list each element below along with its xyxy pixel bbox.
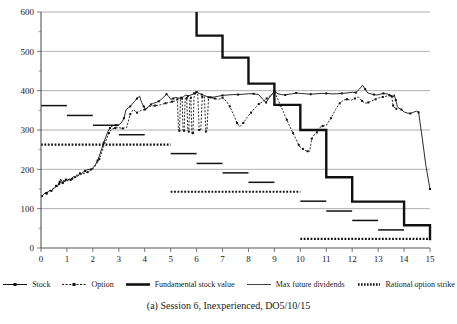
svg-text:15: 15 bbox=[426, 254, 436, 264]
svg-text:100: 100 bbox=[21, 204, 35, 214]
gridlines bbox=[41, 12, 430, 248]
max-future-dividends-series bbox=[41, 106, 404, 230]
svg-text:6: 6 bbox=[194, 254, 199, 264]
svg-text:9: 9 bbox=[272, 254, 277, 264]
plot-area: 0100200300400500600 01234567891011121314… bbox=[0, 0, 457, 270]
legend-item-rational-option-strike: Rational option strike bbox=[356, 280, 455, 289]
dashed-line-marker-icon bbox=[61, 280, 87, 289]
svg-text:11: 11 bbox=[322, 254, 331, 264]
svg-text:600: 600 bbox=[21, 7, 35, 17]
legend-item-option: Option bbox=[61, 280, 113, 289]
legend-item-max-future-dividends: Max future dividends bbox=[246, 280, 345, 289]
svg-text:1: 1 bbox=[65, 254, 70, 264]
y-axis-ticks bbox=[37, 12, 41, 248]
legend-item-fundamental-stock-value: Fundamental stock value bbox=[125, 280, 235, 289]
thick-line-icon bbox=[125, 280, 151, 289]
figure: 0100200300400500600 01234567891011121314… bbox=[0, 0, 457, 324]
legend-label-fundamental-stock-value: Fundamental stock value bbox=[155, 280, 235, 289]
x-axis-ticks bbox=[41, 248, 430, 252]
svg-text:8: 8 bbox=[246, 254, 251, 264]
thin-line-icon bbox=[246, 280, 272, 289]
svg-text:7: 7 bbox=[220, 254, 225, 264]
svg-text:4: 4 bbox=[142, 254, 147, 264]
svg-text:10: 10 bbox=[296, 254, 306, 264]
svg-text:12: 12 bbox=[348, 254, 357, 264]
x-axis-labels: 0123456789101112131415 bbox=[39, 254, 435, 264]
svg-text:500: 500 bbox=[21, 47, 35, 57]
legend-label-stock: Stock bbox=[32, 280, 50, 289]
y-axis-labels: 0100200300400500600 bbox=[21, 7, 35, 253]
option-series bbox=[45, 91, 397, 194]
dotted-line-icon bbox=[356, 280, 382, 289]
svg-text:300: 300 bbox=[21, 125, 35, 135]
legend-label-option: Option bbox=[91, 280, 113, 289]
chart-legend: Stock Option Fundamental stock value Max… bbox=[0, 276, 457, 292]
svg-text:0: 0 bbox=[39, 254, 44, 264]
svg-text:14: 14 bbox=[400, 254, 410, 264]
figure-caption: (a) Session 6, Inexperienced, DO5/10/15 bbox=[0, 300, 457, 311]
svg-text:5: 5 bbox=[168, 254, 173, 264]
svg-text:3: 3 bbox=[117, 254, 122, 264]
svg-text:0: 0 bbox=[30, 243, 35, 253]
svg-text:400: 400 bbox=[21, 86, 35, 96]
legend-label-max-future-dividends: Max future dividends bbox=[276, 280, 345, 289]
fundamental-stock-value-series bbox=[197, 12, 430, 240]
chart-svg: 0100200300400500600 01234567891011121314… bbox=[0, 0, 457, 270]
stock-series bbox=[41, 85, 431, 197]
svg-text:13: 13 bbox=[374, 254, 384, 264]
svg-text:2: 2 bbox=[91, 254, 96, 264]
svg-text:200: 200 bbox=[21, 165, 35, 175]
line-marker-icon bbox=[2, 280, 28, 289]
legend-label-rational-option-strike: Rational option strike bbox=[386, 280, 455, 289]
legend-item-stock: Stock bbox=[2, 280, 50, 289]
